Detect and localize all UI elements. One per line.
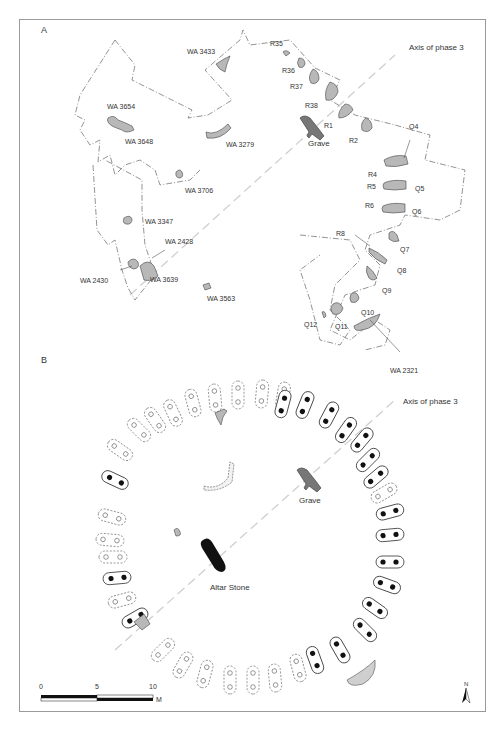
panel-b: B Axis of phase 3 [41,355,458,694]
label-r37: R37 [290,83,303,90]
stone-wa-3563 [203,283,211,290]
stone-q6 [382,203,405,213]
panel-b-axis-label: Axis of phase 3 [403,397,458,406]
stone-r1 [339,104,353,118]
stone-q10 [350,293,359,303]
label-r36: R36 [282,67,295,74]
stone-wa-2430 [128,259,139,269]
panel-a-label: A [41,25,47,35]
archaeological-plan-figure: A Axis of phase 3 [0,0,502,730]
panel-b-label: B [41,355,47,365]
scale-unit: M [156,696,162,703]
label-r5: R5 [367,183,376,190]
stone-b-inner-2 [174,528,181,536]
panel-a-axis-label: Axis of phase 3 [409,43,464,52]
stone-q9 [366,266,377,280]
label-wa-3279: WA 3279 [226,141,254,148]
plan-drawing: A Axis of phase 3 [0,0,502,730]
label-wa-3563: WA 3563 [207,295,235,302]
label-wa-3654: WA 3654 [107,103,135,110]
label-r8: R8 [336,230,345,237]
stone-r35 [283,51,290,56]
label-q8: Q8 [397,267,406,275]
label-q6: Q6 [412,208,421,216]
stone-wa-3433 [216,56,230,72]
label-q9: Q9 [382,287,391,295]
label-grave-b: Grave [299,496,321,505]
label-wa-3347: WA 3347 [145,218,173,225]
stone-q12 [322,312,326,319]
label-wa-3639: WA 3639 [150,276,178,283]
grave-b [297,468,321,492]
label-q5: Q5 [415,185,424,193]
axis-line-a [130,55,395,295]
stone-r2 [362,118,373,132]
label-r1: R1 [324,122,333,129]
scale-bar: 0 5 10 M [39,683,162,703]
label-r4: R4 [368,171,377,178]
label-r38: R38 [305,102,318,109]
stone-q7 [389,231,399,241]
stone-b-arc [204,462,234,490]
label-wa-2428: WA 2428 [165,238,193,245]
label-q12: Q12 [304,321,317,329]
stone-q5 [383,180,406,190]
scale-tick-10: 10 [149,683,157,690]
axis-line-b [115,400,395,650]
stone-r38 [326,82,339,100]
scale-tick-0: 0 [39,683,43,690]
label-q10: Q10 [361,309,374,317]
stone-wa-3706 [176,170,183,178]
grave-a [300,116,324,140]
label-wa-3433: WA 3433 [187,48,215,55]
label-q7: Q7 [400,246,409,254]
stone-wa-3347 [123,216,132,224]
scale-tick-5: 5 [95,683,99,690]
label-wa-3706: WA 3706 [185,187,213,194]
label-r35: R35 [270,40,283,47]
stone-wa-3279 [206,124,231,138]
label-altar-stone: Altar Stone [210,583,250,592]
stone-r8 [369,248,387,264]
label-r6: R6 [365,202,374,209]
label-q11: Q11 [335,323,348,331]
label-grave-a: Grave [308,139,330,148]
stone-wa-2321 [354,314,380,331]
stone-b-inner-1 [215,409,227,425]
stone-r37 [309,69,319,84]
label-q4: Q4 [409,123,418,131]
label-r2: R2 [349,137,358,144]
stone-ring [96,380,406,694]
stone-b-outer [347,660,375,685]
svg-text:N: N [464,681,468,687]
stone-r36 [298,58,306,68]
north-arrow-icon: N [462,681,470,703]
label-wa-3648: WA 3648 [125,138,153,145]
panel-a: A Axis of phase 3 [41,25,465,374]
label-wa-2430: WA 2430 [80,277,108,284]
label-wa-2321: WA 2321 [390,367,418,374]
stone-wa-3654 [108,116,135,132]
